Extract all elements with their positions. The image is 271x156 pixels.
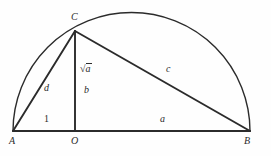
segment-label-cb-c: c — [166, 64, 170, 74]
segment-label-ac-d: d — [44, 83, 49, 93]
geometry-figure: A O B C 1 a d c √a b — [0, 0, 271, 156]
geometry-canvas — [0, 0, 271, 156]
point-label-a: A — [9, 136, 15, 146]
point-label-b: B — [244, 136, 250, 146]
segment-label-ob-a: a — [160, 114, 165, 124]
segment-label-ao-one: 1 — [44, 114, 49, 124]
point-label-c: C — [71, 12, 78, 22]
point-label-o: O — [71, 136, 78, 146]
segment-label-co-sqrt-a: √a — [80, 63, 92, 75]
segment-label-co-b: b — [84, 85, 89, 95]
radical-argument: a — [86, 63, 92, 75]
